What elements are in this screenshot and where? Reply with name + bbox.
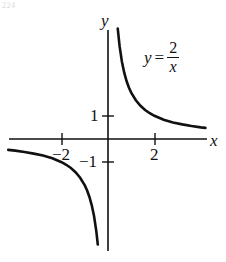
figure-container: 224 y x −2 2 1 −1 y = 2 x bbox=[0, 0, 226, 262]
tick-label-y-negative-1: −1 bbox=[79, 153, 97, 170]
tick-label-x-positive-2: 2 bbox=[150, 146, 159, 163]
plot-canvas bbox=[0, 0, 226, 262]
x-axis-label: x bbox=[210, 132, 218, 149]
equation-lhs: y bbox=[144, 48, 152, 68]
tick-label-x-negative-2: −2 bbox=[52, 146, 70, 163]
equation-annotation: y = 2 x bbox=[144, 40, 179, 75]
equation-fraction: 2 x bbox=[167, 40, 179, 75]
fraction-numerator: 2 bbox=[167, 40, 179, 57]
y-axis-label: y bbox=[101, 12, 109, 29]
fraction-denominator: x bbox=[168, 58, 179, 75]
equation-equals-sign: = bbox=[155, 48, 165, 68]
tick-label-y-positive-1: 1 bbox=[90, 107, 99, 124]
